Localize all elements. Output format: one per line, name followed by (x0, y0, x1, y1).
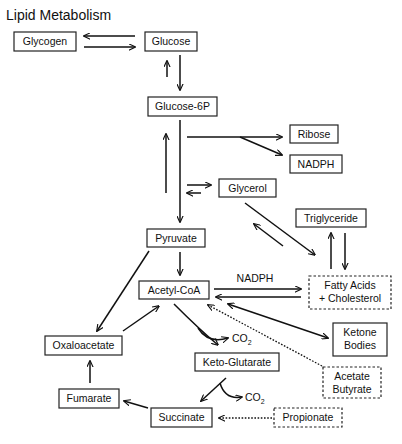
node-label: Pyruvate (155, 232, 197, 244)
node-ribose: Ribose (290, 125, 338, 143)
node-nadph: NADPH (290, 155, 342, 173)
node-label: Glycogen (23, 35, 68, 47)
node-label: Glucose-6P (155, 100, 210, 112)
node-label: Succinate (158, 411, 204, 423)
node-acetyl-coa: Acetyl-CoA (139, 281, 209, 299)
arrow-oxaloacetate-to-acetyl-coa (123, 306, 159, 331)
node-ketone-bodies: Ketone Bodies (333, 323, 387, 356)
node-label: Keto-Glutarate (203, 356, 271, 368)
node-label: Oxaloacetate (53, 339, 115, 351)
node-label: Ribose (298, 128, 331, 140)
node-fatty-acids-cholesterol: Fatty Acids + Cholesterol (309, 276, 391, 309)
node-triglyceride: Triglyceride (296, 209, 366, 227)
node-label: NADPH (298, 158, 335, 170)
node-glycerol: Glycerol (219, 179, 276, 197)
node-label: Glycerol (228, 182, 267, 194)
node-label-line1: Fatty Acids (324, 279, 375, 291)
co2-label-2: CO2 (245, 391, 265, 405)
node-label: Acetyl-CoA (148, 284, 201, 296)
node-glucose: Glucose (145, 32, 197, 51)
node-label-line1: Acetate (334, 370, 370, 382)
node-keto-glutarate: Keto-Glutarate (195, 353, 279, 371)
node-glucose-6p: Glucose-6P (148, 97, 217, 116)
node-acetate-butyrate: Acetate Butyrate (323, 367, 381, 398)
diagram-title: Lipid Metabolism (6, 7, 111, 23)
arrow-co2-release-2 (220, 383, 242, 397)
node-label-line1: Ketone (343, 326, 376, 338)
node-label: Fumarate (67, 392, 112, 404)
node-label: Propionate (283, 411, 334, 423)
arrow-co2-release-1 (198, 328, 228, 340)
arrow-glucose-6p-to-nadph (240, 137, 282, 155)
node-succinate: Succinate (151, 408, 212, 427)
edge-label-nadph: NADPH (237, 272, 274, 284)
node-label-line2: Butyrate (332, 383, 371, 395)
node-label: Triglyceride (304, 212, 358, 224)
node-fumarate: Fumarate (59, 389, 119, 408)
node-propionate: Propionate (274, 408, 342, 427)
arrow-succinate-to-fumarate (124, 401, 148, 408)
node-label-line2: Bodies (344, 339, 376, 351)
node-label-line2: + Cholesterol (319, 292, 381, 304)
node-pyruvate: Pyruvate (147, 229, 205, 247)
node-glycogen: Glycogen (14, 32, 76, 51)
node-oxaloacetate: Oxaloacetate (45, 336, 122, 355)
node-label: Glucose (152, 35, 191, 47)
lipid-metabolism-diagram: Lipid Metabolism Glycogen Glucose Glucos… (0, 0, 402, 444)
co2-label-1: CO2 (232, 332, 252, 346)
